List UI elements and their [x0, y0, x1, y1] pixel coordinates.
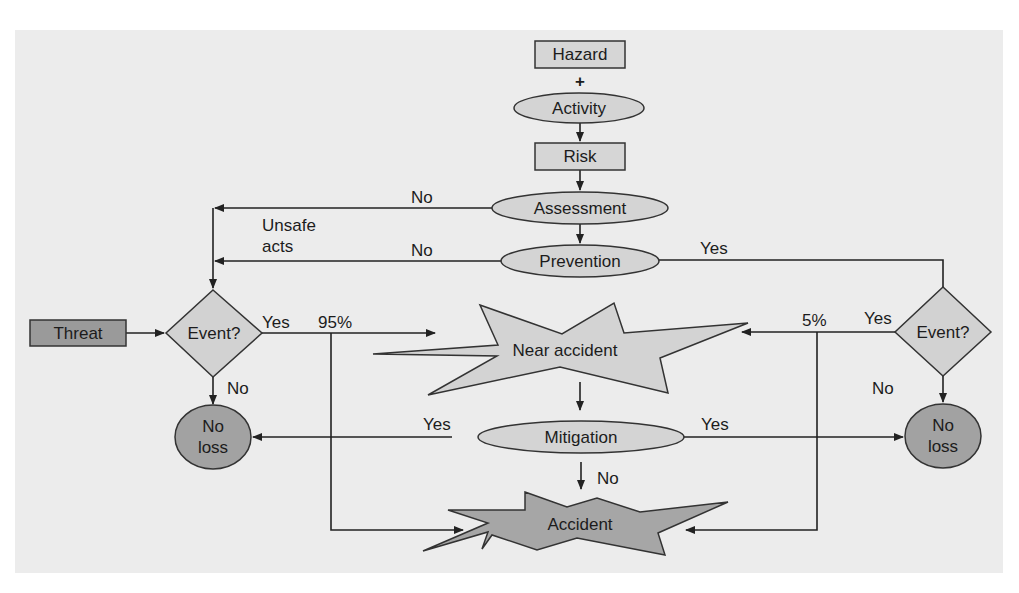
- assessment-node[interactable]: Assessment: [492, 192, 668, 224]
- no-loss-right-label-1: No: [932, 416, 954, 435]
- threat-node[interactable]: Threat: [30, 320, 126, 346]
- label-unsafe-acts-2: acts: [262, 237, 293, 256]
- no-loss-left-label-1: No: [202, 417, 224, 436]
- label-event-left-no: No: [227, 379, 249, 398]
- label-prevention-yes: Yes: [700, 239, 728, 258]
- label-unsafe-acts-1: Unsafe: [262, 216, 316, 235]
- activity-label: Activity: [552, 99, 606, 118]
- near-accident-node[interactable]: Near accident: [373, 303, 748, 395]
- mitigation-label: Mitigation: [545, 428, 618, 447]
- label-event-right-yes: Yes: [864, 309, 892, 328]
- label-5-percent: 5%: [802, 311, 827, 330]
- event-left-label: Event?: [188, 324, 241, 343]
- prevention-node[interactable]: Prevention: [501, 245, 659, 277]
- hazard-label: Hazard: [553, 45, 608, 64]
- no-loss-right-node[interactable]: No loss: [905, 404, 981, 468]
- risk-node[interactable]: Risk: [535, 143, 625, 170]
- assessment-label: Assessment: [534, 199, 627, 218]
- no-loss-right-label-2: loss: [928, 437, 958, 456]
- event-left-decision[interactable]: Event?: [166, 290, 262, 377]
- hazard-node[interactable]: Hazard: [535, 41, 625, 68]
- label-95-percent: 95%: [318, 313, 352, 332]
- label-mitigation-no: No: [597, 469, 619, 488]
- prevention-label: Prevention: [539, 252, 620, 271]
- label-assessment-no: No: [411, 188, 433, 207]
- activity-node[interactable]: Activity: [514, 93, 644, 123]
- event-right-label: Event?: [917, 323, 970, 342]
- no-loss-left-node[interactable]: No loss: [175, 405, 251, 469]
- accident-label: Accident: [547, 515, 612, 534]
- label-event-right-no: No: [872, 379, 894, 398]
- risk-label: Risk: [563, 147, 597, 166]
- label-prevention-no: No: [411, 241, 433, 260]
- event-right-decision[interactable]: Event?: [895, 287, 991, 376]
- label-event-left-yes: Yes: [262, 313, 290, 332]
- near-accident-label: Near accident: [513, 341, 618, 360]
- label-mitigation-yes-right: Yes: [701, 415, 729, 434]
- arrow-prevention-yes: [659, 260, 943, 287]
- flowchart: Hazard + Activity Risk Assessment Preven…: [0, 0, 1019, 593]
- plus-sign: +: [575, 72, 585, 91]
- accident-node[interactable]: Accident: [423, 492, 728, 555]
- label-mitigation-yes-left: Yes: [423, 415, 451, 434]
- mitigation-node[interactable]: Mitigation: [478, 421, 684, 453]
- threat-label: Threat: [53, 324, 102, 343]
- no-loss-left-label-2: loss: [198, 438, 228, 457]
